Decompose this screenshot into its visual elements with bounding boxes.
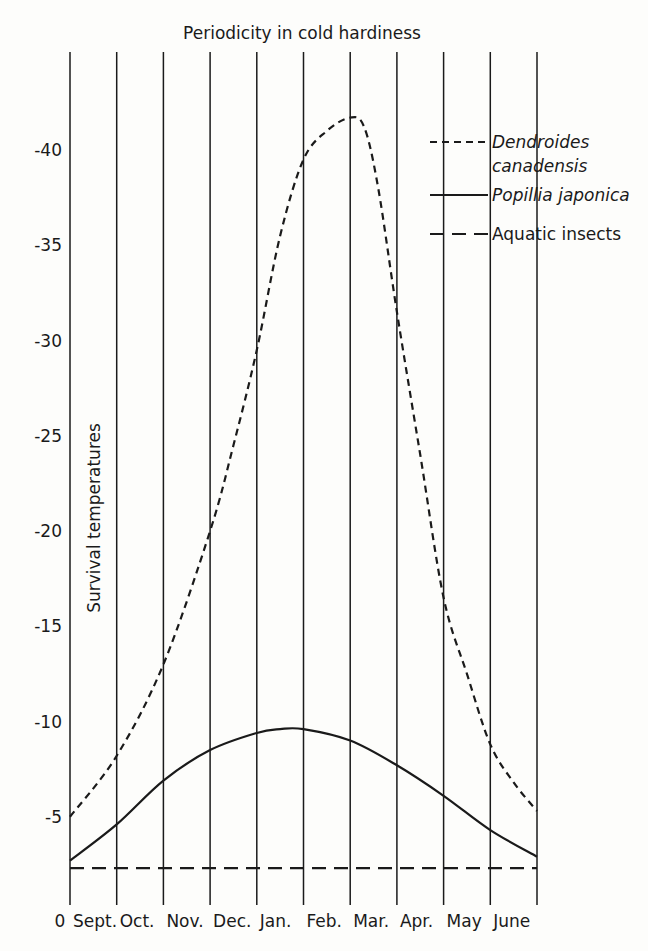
y-axis-ticks: -5-10-15-20-25-30-35-40 xyxy=(34,140,62,827)
legend-label: Aquatic insects xyxy=(492,224,621,244)
legend-item: Aquatic insects xyxy=(430,224,621,244)
legend-label: Popillia japonica xyxy=(492,185,630,205)
x-tick-label: Mar. xyxy=(353,911,389,931)
y-tick-label: -35 xyxy=(34,235,62,255)
y-tick-label: -5 xyxy=(45,807,62,827)
y-tick-label: -10 xyxy=(34,712,62,732)
chart-title: Periodicity in cold hardiness xyxy=(183,23,421,43)
y-tick-label: -15 xyxy=(34,616,62,636)
y-tick-label: -30 xyxy=(34,331,62,351)
legend-label: Dendroides xyxy=(492,132,589,152)
y-axis-label: Survival temperatures xyxy=(84,423,104,613)
chart: Periodicity in cold hardiness -5-10-15-2… xyxy=(0,0,648,951)
x-tick-label: Apr. xyxy=(400,911,433,931)
x-axis-ticks: 0Sept.Oct.Nov.Dec.Jan.Feb.Mar.Apr.MayJun… xyxy=(55,911,531,931)
x-tick-label: Jan. xyxy=(259,911,292,931)
x-origin-label: 0 xyxy=(55,911,66,931)
x-tick-label: June xyxy=(492,911,530,931)
x-tick-label: Dec. xyxy=(213,911,251,931)
legend-label: canadensis xyxy=(492,156,588,176)
x-tick-label: Nov. xyxy=(166,911,203,931)
x-tick-label: Oct. xyxy=(120,911,155,931)
y-tick-label: -20 xyxy=(34,521,62,541)
x-tick-label: May xyxy=(447,911,482,931)
month-gridlines xyxy=(70,52,537,905)
legend-item: Popillia japonica xyxy=(430,185,630,205)
x-tick-label: Feb. xyxy=(307,911,343,931)
x-tick-label: Sept. xyxy=(73,911,117,931)
y-tick-label: -40 xyxy=(34,140,62,160)
legend: DendroidescanadensisPopillia japonicaAqu… xyxy=(430,132,630,244)
legend-item: Dendroidescanadensis xyxy=(430,132,589,176)
y-tick-label: -25 xyxy=(34,426,62,446)
